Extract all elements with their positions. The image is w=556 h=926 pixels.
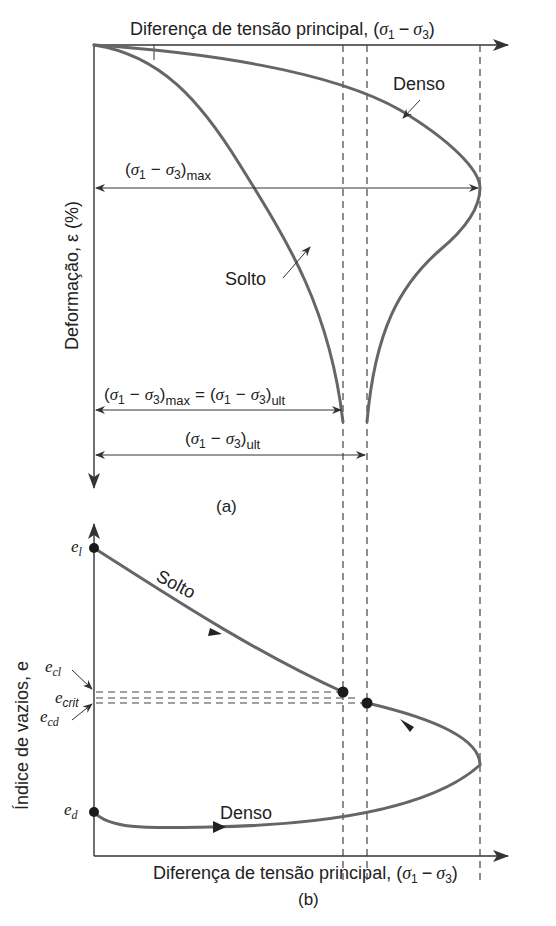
pointer-e-cl (72, 670, 92, 689)
panel-a: Diferença de tensão principal, (σ1−σ3) D… (62, 19, 508, 880)
loose-direction-arrow (208, 628, 222, 636)
label-e-crit: ecrit (55, 688, 79, 710)
panel-a-x-axis-label: Diferença de tensão principal, (σ1−σ3) (130, 19, 435, 42)
label-e-d: ed (64, 800, 79, 822)
label-e-cl: ecl (45, 657, 62, 679)
panel-a-y-axis-label: Deformação, ε (%) (62, 201, 82, 350)
dense-curve-b (94, 703, 480, 828)
panel-b: Índice de vazios, e Solto Denso el ecl e… (12, 524, 508, 909)
dense-label-a: Denso (393, 74, 445, 94)
triaxial-behavior-diagram: Diferença de tensão principal, (σ1−σ3) D… (0, 0, 556, 926)
label-e-cd: ecd (40, 707, 60, 729)
panel-b-x-axis-label: Diferença de tensão principal, (σ1−σ3) (153, 863, 458, 886)
label-e-l: el (71, 537, 83, 559)
point-e-cl (338, 687, 349, 698)
point-e-cd (362, 698, 373, 709)
dim-label-max: (σ1−σ3)max (125, 160, 211, 183)
loose-curve-b (94, 548, 343, 692)
loose-curve-a (94, 45, 343, 422)
point-e-d (89, 807, 99, 817)
dim-label-ult: (σ1−σ3)ult (185, 429, 261, 452)
panel-a-caption: (a) (216, 497, 237, 516)
point-e-l (89, 543, 99, 553)
panel-b-y-axis-label: Índice de vazios, e (12, 661, 32, 810)
loose-pointer-a (283, 247, 310, 278)
loose-label-a: Solto (225, 269, 266, 289)
dense-pointer-a (403, 100, 420, 118)
loose-label-b: Solto (153, 566, 199, 603)
dense-curve-a (94, 45, 480, 422)
dense-direction-arrow-2 (400, 719, 414, 732)
panel-b-caption: (b) (298, 890, 319, 909)
dense-label-b: Denso (220, 803, 272, 823)
dim-label-max-eq-ult: (σ1−σ3)max=(σ1−σ3)ult (104, 385, 285, 408)
